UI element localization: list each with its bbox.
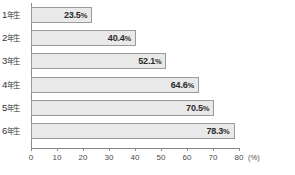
- bar-value-percent-sign: %: [125, 34, 131, 43]
- x-tick-mark-40: [135, 148, 136, 151]
- x-tick-mark-10: [57, 148, 58, 151]
- bar-value-number: 78.3: [206, 126, 223, 136]
- bar-value-number: 52.1: [138, 56, 155, 66]
- bar-value-percent-sign: %: [187, 81, 193, 90]
- bar[interactable]: 64.6%: [31, 77, 199, 93]
- x-tick-label-50: 50: [157, 153, 166, 162]
- bar-value-label: 52.1%: [138, 56, 165, 66]
- category-label-3: 3年生: [2, 55, 29, 66]
- x-tick-mark-0: [31, 148, 32, 151]
- x-tick-mark-50: [161, 148, 162, 151]
- category-suffix: 年生: [7, 81, 20, 90]
- x-tick-label-10: 10: [53, 153, 62, 162]
- bar-value-label: 78.3%: [206, 126, 233, 136]
- category-suffix: 年生: [7, 57, 20, 66]
- bar[interactable]: 78.3%: [31, 123, 235, 139]
- x-tick-label-60: 60: [183, 153, 192, 162]
- x-tick-label-30: 30: [105, 153, 114, 162]
- bar-value-label: 64.6%: [171, 80, 198, 90]
- x-tick-label-40: 40: [131, 153, 140, 162]
- bar[interactable]: 40.4%: [31, 30, 136, 46]
- x-tick-mark-60: [187, 148, 188, 151]
- x-tick-label-80: 80: [235, 153, 244, 162]
- bar-value-number: 70.5: [186, 103, 203, 113]
- category-label-6: 6年生: [2, 125, 29, 136]
- bar-value-percent-sign: %: [203, 104, 209, 113]
- x-tick-mark-20: [83, 148, 84, 151]
- bar-value-percent-sign: %: [155, 57, 161, 66]
- category-suffix: 年生: [7, 34, 20, 43]
- bar-value-label: 23.5%: [64, 10, 91, 20]
- bar[interactable]: 23.5%: [31, 7, 92, 23]
- x-tick-mark-30: [109, 148, 110, 151]
- bar-chart: 1年生2年生3年生4年生5年生6年生 23.5%40.4%52.1%64.6%7…: [0, 0, 295, 175]
- x-tick-label-20: 20: [79, 153, 88, 162]
- category-label-5: 5年生: [2, 102, 29, 113]
- bar-value-label: 70.5%: [186, 103, 213, 113]
- x-tick-label-70: 70: [209, 153, 218, 162]
- bar[interactable]: 52.1%: [31, 53, 166, 69]
- x-tick-label-0: 0: [29, 153, 33, 162]
- x-tick-mark-70: [213, 148, 214, 151]
- category-suffix: 年生: [7, 11, 20, 20]
- bar-value-number: 40.4: [108, 33, 125, 43]
- category-suffix: 年生: [7, 127, 20, 136]
- bar-value-number: 64.6: [171, 80, 188, 90]
- bar-value-percent-sign: %: [223, 127, 229, 136]
- x-tick-mark-80: [239, 148, 240, 151]
- x-axis-unit-label: (%): [248, 153, 260, 162]
- bar-value-label: 40.4%: [108, 33, 135, 43]
- bar-value-number: 23.5: [64, 10, 81, 20]
- category-suffix: 年生: [7, 104, 20, 113]
- category-label-4: 4年生: [2, 79, 29, 90]
- category-label-2: 2年生: [2, 32, 29, 43]
- bar[interactable]: 70.5%: [31, 100, 214, 116]
- category-label-1: 1年生: [2, 9, 29, 20]
- bar-value-percent-sign: %: [81, 11, 87, 20]
